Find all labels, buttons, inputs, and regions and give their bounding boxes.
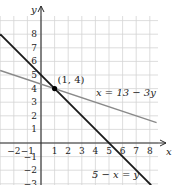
x-tick-label: 8 bbox=[147, 146, 153, 156]
y-tick-label: 7 bbox=[31, 43, 37, 53]
y-axis-label: y bbox=[30, 4, 37, 15]
point-label: (1, 4) bbox=[58, 74, 85, 85]
y-tick-label: 1 bbox=[31, 124, 37, 134]
x-tick-label: 4 bbox=[93, 146, 99, 156]
line-5-minus-x-equals-y bbox=[0, 34, 151, 185]
black-line-label: 5 − x = y bbox=[92, 169, 139, 180]
x-axis-label: x bbox=[166, 146, 172, 157]
gray-line-label: x = 13 − 3y bbox=[96, 87, 156, 98]
y-tick-label: 8 bbox=[31, 29, 37, 39]
y-tick-label: 4 bbox=[31, 84, 37, 94]
tick-labels: −2−112345678−3−2−112345678 bbox=[7, 29, 153, 185]
series-lines bbox=[0, 34, 156, 185]
intersection-point bbox=[52, 86, 57, 91]
y-tick-label: −1 bbox=[24, 152, 37, 162]
x-tick-label: 2 bbox=[65, 146, 71, 156]
y-tick-label: −2 bbox=[24, 165, 37, 175]
x-tick-label: 3 bbox=[79, 146, 85, 156]
x-tick-label: 5 bbox=[106, 146, 112, 156]
x-tick-label: −2 bbox=[7, 146, 20, 156]
x-tick-label: 1 bbox=[52, 146, 58, 156]
chart: −2−112345678−3−2−112345678 (1, 4) x = 13… bbox=[0, 0, 177, 185]
y-tick-label: −3 bbox=[24, 179, 38, 185]
x-tick-label: 7 bbox=[133, 146, 139, 156]
y-tick-label: 3 bbox=[31, 97, 37, 107]
y-tick-label: 2 bbox=[31, 111, 37, 121]
